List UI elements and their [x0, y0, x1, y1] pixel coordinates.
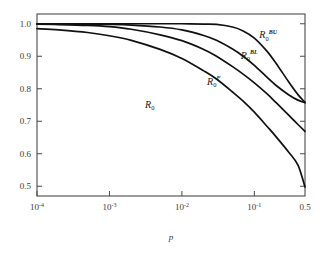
y-tick-label: 0.6	[20, 149, 32, 159]
x-tick-exponent: -1	[256, 202, 261, 208]
curve-label-base: R	[144, 99, 151, 110]
x-tick-exponent: -2	[184, 202, 189, 208]
curve-label-base: R	[240, 50, 247, 61]
curve-label-base: R	[206, 76, 213, 87]
figure-container: 10-410-310-210-10.5 0.50.60.70.80.91.0 R…	[0, 0, 335, 257]
x-tick-mantissa: 0.5	[299, 202, 311, 212]
line-chart: 10-410-310-210-10.5 0.50.60.70.80.91.0 R…	[0, 0, 335, 257]
curve-label-superscript: BU	[268, 29, 278, 35]
curve-label-subscript: 0	[265, 35, 268, 42]
x-tick-exponent: -4	[39, 202, 44, 208]
chart-background	[0, 0, 335, 257]
x-axis-title: p	[168, 232, 174, 242]
curve-label-subscript: 0	[213, 81, 216, 88]
curve-label-subscript: 0	[247, 55, 250, 62]
y-tick-label: 0.9	[20, 51, 32, 61]
x-tick-exponent: -3	[111, 202, 116, 208]
y-tick-label: 0.8	[20, 84, 32, 94]
x-axis-title-label: p	[168, 232, 174, 242]
y-tick-label: 0.5	[20, 181, 32, 191]
x-tick-label: 0.5	[299, 202, 311, 212]
y-tick-label: 0.7	[20, 116, 32, 126]
curve-label-superscript: BL	[249, 49, 258, 55]
curve-label-superscript: F	[216, 75, 220, 81]
curve-label-subscript: 0	[151, 104, 154, 111]
curve-label-base: R	[258, 29, 265, 40]
y-tick-label: 1.0	[20, 19, 32, 29]
